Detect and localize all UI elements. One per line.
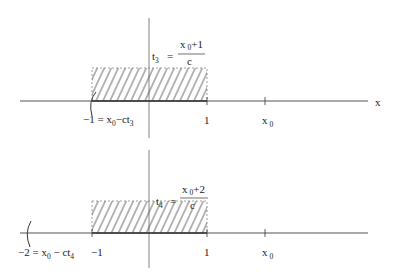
svg-text:x0+2: x0+2 [182,183,205,197]
diagram: x 1 x0 −1 = x0−ct3 t3 = x0+1 c −1 1 x0 −… [0,0,400,279]
bottom-panel: −1 1 x0 −2 = x0 − ct4 t4 = x0+2 c [18,150,368,268]
left-bound-label: −2 = x0 − ct4 [18,246,74,261]
tick-label-one: 1 [204,246,210,258]
tick-label-neg-one: −1 [91,246,103,258]
left-bound-label: −1 = x0−ct3 [83,113,134,128]
tick-label-x0: x0 [262,246,274,261]
svg-text:=: = [170,195,176,207]
hatched-region [92,68,207,101]
left-bracket [27,221,31,247]
svg-text:x0+1: x0+1 [180,38,203,52]
tick-label-x0: x0 [262,114,274,129]
axis-label-x: x [375,96,381,108]
svg-text:=: = [167,50,173,62]
svg-text:c: c [190,199,195,211]
time-equation: t3 = x0+1 c [152,38,205,67]
top-panel: x 1 x0 −1 = x0−ct3 t3 = x0+1 c [20,18,381,138]
svg-text:t3: t3 [152,50,159,65]
tick-label-one: 1 [204,114,210,126]
svg-text:c: c [187,55,192,67]
